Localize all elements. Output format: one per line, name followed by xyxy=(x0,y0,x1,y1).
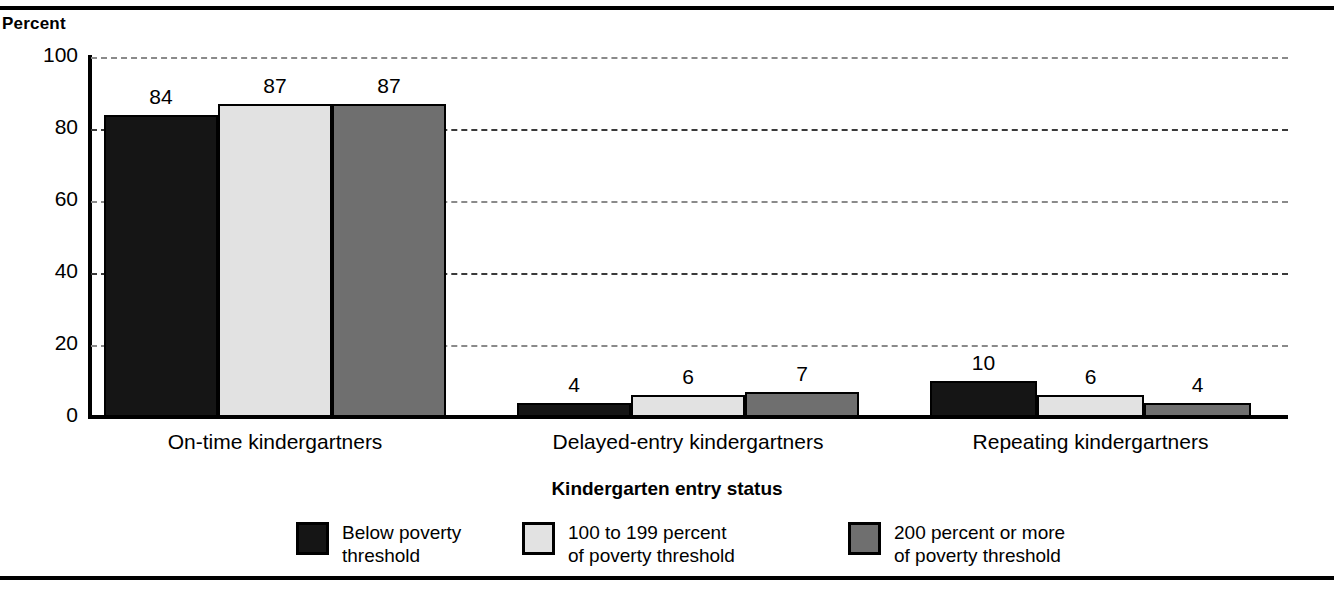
y-tick-label: 40 xyxy=(4,259,78,283)
x-axis-title: Kindergarten entry status xyxy=(0,478,1334,500)
bar xyxy=(104,115,218,417)
bar-value-label: 87 xyxy=(332,74,446,98)
bar-value-label: 87 xyxy=(218,74,332,98)
legend: Below poverty threshold100 to 199 percen… xyxy=(296,521,1296,573)
category-label: On-time kindergartners xyxy=(44,430,506,454)
y-axis-title: Percent xyxy=(2,14,66,34)
legend-label: Below poverty threshold xyxy=(342,521,461,567)
bar-value-label: 6 xyxy=(631,365,745,389)
bar xyxy=(930,381,1037,417)
bar xyxy=(332,104,446,417)
legend-item: 100 to 199 percent of poverty threshold xyxy=(522,521,735,567)
bar xyxy=(517,403,631,417)
y-tick-label: 100 xyxy=(4,43,78,67)
bar-value-label: 4 xyxy=(517,373,631,397)
bar-value-label: 10 xyxy=(930,351,1037,375)
bar-chart: Percent 020406080100 On-time kindergartn… xyxy=(0,0,1334,590)
y-tick-label: 80 xyxy=(4,115,78,139)
legend-swatch xyxy=(522,522,555,555)
bar-value-label: 84 xyxy=(104,85,218,109)
y-tick-label: 60 xyxy=(4,187,78,211)
legend-swatch xyxy=(848,522,881,555)
y-tick-label: 20 xyxy=(4,331,78,355)
bar xyxy=(631,395,745,417)
y-tick-label: 0 xyxy=(4,403,78,427)
legend-label: 100 to 199 percent of poverty threshold xyxy=(568,521,735,567)
legend-swatch xyxy=(296,522,329,555)
category-label: Repeating kindergartners xyxy=(870,430,1311,454)
legend-label: 200 percent or more of poverty threshold xyxy=(894,521,1065,567)
legend-item: Below poverty threshold xyxy=(296,521,461,567)
plot-area xyxy=(91,57,1288,417)
bar-value-label: 4 xyxy=(1144,373,1251,397)
bar-value-label: 7 xyxy=(745,362,859,386)
bar xyxy=(1144,403,1251,417)
bottom-rule xyxy=(0,576,1334,580)
gridline xyxy=(91,57,1288,59)
bar xyxy=(1037,395,1144,417)
bar xyxy=(218,104,332,417)
category-label: Delayed-entry kindergartners xyxy=(457,430,919,454)
legend-item: 200 percent or more of poverty threshold xyxy=(848,521,1065,567)
bar-value-label: 6 xyxy=(1037,365,1144,389)
bar xyxy=(745,392,859,417)
